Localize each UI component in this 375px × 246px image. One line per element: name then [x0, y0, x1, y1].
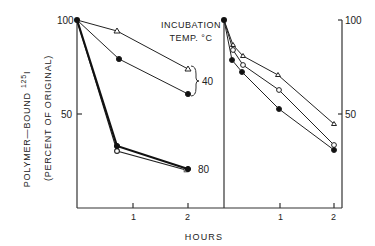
legend-title-line2: TEMP. °C [170, 33, 213, 43]
right-y-tick-50: 50 [345, 109, 357, 120]
right-origin-point [221, 17, 227, 23]
y-axis-title: POLYMER—BOUND125I [20, 71, 32, 188]
group-label-40: 40 [202, 76, 214, 87]
y-axis-subtitle: (PERCENT OF ORIGINAL) [43, 55, 53, 181]
chart-figure: 100 50 100 50 1 2 1 2 HOURS POLYMER—BOUN… [0, 0, 375, 246]
svg-text:POLYMER—BOUND125I: POLYMER—BOUND125I [20, 71, 32, 188]
left-series-40-filled [77, 20, 191, 97]
right-series-open-circle [224, 20, 336, 147]
right-y-tick-100: 100 [345, 15, 362, 26]
right-series-filled-circle [224, 20, 337, 153]
bracket-40 [191, 66, 199, 96]
left-y-tick-100: 100 [57, 15, 74, 26]
svg-text:(PERCENT OF ORIGINAL): (PERCENT OF ORIGINAL) [43, 55, 53, 181]
left-origin-point [74, 17, 80, 23]
left-x-tick-1: 1 [131, 212, 136, 222]
right-x-tick-1: 1 [278, 212, 283, 222]
group-label-80: 80 [198, 164, 210, 175]
legend-title-line1: INCUBATION [161, 20, 221, 30]
left-y-tick-50: 50 [61, 109, 73, 120]
right-x-tick-2: 2 [331, 212, 336, 222]
x-axis-title: HOURS [185, 232, 224, 242]
left-axes [77, 20, 224, 208]
right-axes [224, 20, 342, 208]
left-x-tick-2: 2 [185, 212, 190, 222]
